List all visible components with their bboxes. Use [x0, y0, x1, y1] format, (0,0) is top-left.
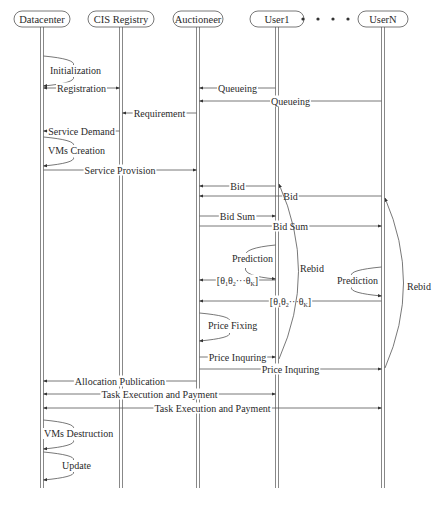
message-label: Bid Sum	[273, 221, 309, 232]
message: Allocation Publication	[44, 376, 197, 387]
message: Task Execution and Payment	[44, 389, 276, 400]
message-label: Service Demand	[48, 126, 114, 137]
message-label: Registration	[57, 83, 106, 94]
message: Price Inquring	[200, 352, 276, 363]
message-label: Requirement	[134, 108, 186, 119]
message: Update	[44, 452, 93, 480]
ellipsis-dot	[346, 17, 349, 20]
message-label: VMs Creation	[48, 145, 105, 156]
rebid-arc-user1: Rebid	[279, 184, 324, 359]
message: VMs Creation	[44, 137, 106, 166]
participant-label: CIS Registry	[94, 14, 149, 25]
lifelines	[41, 26, 385, 488]
message: [θ1θ2···θK]	[200, 296, 382, 308]
message-label: Price Inquring	[262, 364, 320, 375]
message: Queueing	[200, 83, 276, 94]
message-label: Initialization	[50, 65, 101, 76]
message: Requirement	[123, 108, 197, 119]
participant-user1: User1	[250, 11, 304, 27]
participant-ellipsis	[301, 17, 349, 20]
message-label: Price Inquring	[209, 352, 267, 363]
participant-cis: CIS Registry	[88, 11, 154, 27]
participant-datacenter: Datacenter	[14, 11, 70, 27]
message: Bid Sum	[200, 221, 382, 232]
message-label: Queueing	[218, 83, 257, 94]
message: Bid Sum	[200, 211, 276, 222]
message-label: Bid Sum	[220, 211, 256, 222]
message: VMs Destruction	[43, 420, 114, 449]
ellipsis-dot	[301, 17, 304, 20]
message-label: Bid	[230, 181, 244, 192]
message: Service Provision	[44, 165, 197, 176]
message: Registration	[44, 83, 120, 94]
participant-label: User1	[264, 14, 289, 25]
sequence-diagram: DatacenterCIS RegistryAuctioneerUser1Use…	[0, 0, 441, 510]
message-label: Queueing	[271, 96, 310, 107]
ellipsis-dot	[331, 17, 334, 20]
participant-label: Auctioneer	[175, 14, 222, 25]
participant-auctioneer: Auctioneer	[173, 11, 223, 27]
message: Price Inquring	[200, 364, 382, 375]
participant-usern: UserN	[358, 11, 408, 27]
message: Bid	[200, 181, 276, 192]
message-label: Task Execution and Payment	[101, 389, 217, 400]
message: Price Fixing	[200, 313, 259, 341]
message-label: Price Fixing	[208, 320, 257, 331]
rebid-arc-usern: Rebid	[385, 198, 431, 368]
message-label: VMs Destruction	[44, 428, 113, 439]
message-label: Prediction	[232, 253, 273, 264]
participant-label: Datacenter	[19, 14, 65, 25]
message: Service Demand	[44, 126, 120, 137]
participant-label: UserN	[369, 14, 397, 25]
message-label: Service Provision	[85, 165, 156, 176]
message-label: Allocation Publication	[75, 376, 165, 387]
message: Bid	[200, 191, 382, 202]
message: Task Execution and Payment	[44, 403, 382, 414]
message-label: Update	[62, 460, 91, 471]
rebid-label: Rebid	[300, 263, 324, 274]
message: Prediction	[336, 267, 382, 296]
rebid-label: Rebid	[407, 281, 431, 292]
message: [θ1θ2···θK]	[200, 275, 276, 287]
message-label: Task Execution and Payment	[154, 403, 270, 414]
messages: InitializationRegistrationQueueingQueuei…	[43, 56, 382, 480]
ellipsis-dot	[316, 17, 319, 20]
message-label: Prediction	[337, 275, 378, 286]
message: Initialization	[44, 56, 103, 86]
message: Queueing	[200, 96, 382, 107]
